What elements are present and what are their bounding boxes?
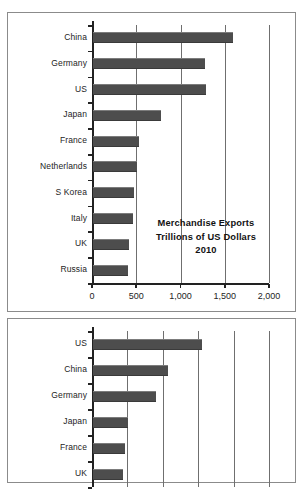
- y-axis-tick: [88, 128, 92, 130]
- bar: [93, 469, 123, 480]
- y-axis-tick: [88, 51, 92, 53]
- y-axis-tick: [88, 77, 92, 79]
- y-axis-tick: [88, 231, 92, 233]
- y-axis-line: [92, 327, 94, 487]
- category-label: US: [8, 85, 87, 94]
- category-label: Japan: [8, 110, 87, 119]
- chart-title-line-3: 2010: [136, 244, 276, 258]
- y-axis-tick: [88, 435, 92, 437]
- category-label: France: [8, 136, 87, 145]
- category-label: Germany: [8, 391, 87, 400]
- y-axis-tick: [88, 102, 92, 104]
- merchandise-exports-chart: Merchandise Exports Trillions of US Doll…: [8, 13, 295, 311]
- category-label: China: [8, 365, 87, 374]
- gridline: [198, 331, 199, 487]
- bar: [93, 239, 129, 250]
- y-axis-tick: [88, 180, 92, 182]
- category-label: Netherlands: [8, 162, 87, 171]
- y-axis-tick: [88, 25, 92, 27]
- y-axis-tick: [88, 206, 92, 208]
- y-axis-tick: [88, 331, 92, 333]
- chart-panel-bottom: USChinaGermanyJapanFranceUK: [7, 318, 296, 483]
- y-axis-tick: [88, 283, 92, 285]
- category-label: China: [8, 33, 87, 42]
- bar: [93, 110, 161, 121]
- chart-title-line-1: Merchandise Exports: [136, 217, 276, 231]
- x-axis-tick: [268, 284, 270, 288]
- bar: [93, 58, 205, 69]
- x-axis-tick-label: 2,000: [239, 291, 299, 301]
- bar: [93, 187, 134, 198]
- y-axis-tick: [88, 487, 92, 489]
- y-axis-tick: [88, 257, 92, 259]
- chart-panel-top: Merchandise Exports Trillions of US Doll…: [7, 12, 296, 312]
- chart-title-line-2: Trillions of US Dollars: [136, 231, 276, 245]
- plot-area-bottom: [92, 331, 270, 487]
- x-axis-tick: [135, 284, 137, 288]
- bar: [93, 213, 133, 224]
- bar: [93, 136, 139, 147]
- gridline: [163, 331, 164, 487]
- y-axis-tick: [88, 154, 92, 156]
- gridline: [127, 331, 128, 487]
- y-axis-tick: [88, 383, 92, 385]
- category-label: Italy: [8, 214, 87, 223]
- y-axis-tick: [88, 461, 92, 463]
- y-axis-tick: [88, 409, 92, 411]
- bar: [93, 417, 128, 428]
- bar: [93, 365, 168, 376]
- chart-title-block: Merchandise Exports Trillions of US Doll…: [136, 217, 276, 258]
- bar: [93, 443, 125, 454]
- bar: [93, 339, 202, 350]
- category-label: UK: [8, 469, 87, 478]
- category-label: Japan: [8, 417, 87, 426]
- bar: [93, 161, 137, 172]
- x-axis-tick: [91, 284, 93, 288]
- bar: [93, 265, 128, 276]
- merchandise-exports-chart-2: USChinaGermanyJapanFranceUK: [8, 319, 295, 482]
- x-axis-tick: [180, 284, 182, 288]
- category-label: S Korea: [8, 188, 87, 197]
- category-label: US: [8, 339, 87, 348]
- category-label: UK: [8, 239, 87, 248]
- bar: [93, 391, 156, 402]
- bar: [93, 32, 233, 43]
- category-label: France: [8, 443, 87, 452]
- gridline: [234, 331, 235, 487]
- y-axis-tick: [88, 357, 92, 359]
- category-label: Russia: [8, 265, 87, 274]
- category-label: Germany: [8, 59, 87, 68]
- x-axis-tick: [224, 284, 226, 288]
- gridline: [269, 331, 270, 487]
- bar: [93, 84, 206, 95]
